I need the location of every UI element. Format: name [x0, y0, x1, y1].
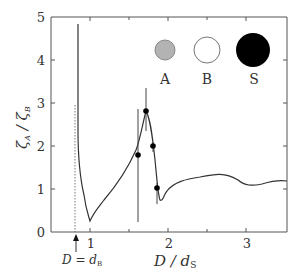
legend: A B S [155, 33, 270, 87]
x-tick-2: 2 [165, 236, 173, 251]
svg-text:ζA / ζB: ζA / ζB [13, 106, 32, 149]
arrow-up-icon [73, 234, 79, 241]
data-point-2 [143, 108, 149, 114]
chart-figure: 1 2 3 0 1 2 3 4 5 ζA / ζB D / dS D = dB [0, 0, 296, 271]
y-tick-3: 3 [37, 96, 45, 111]
data-point-4 [154, 185, 160, 191]
data-point-3 [150, 143, 156, 149]
x-tick-1: 1 [87, 236, 95, 251]
legend-particle-s-icon [236, 33, 270, 67]
y-tick-4: 4 [37, 53, 45, 68]
legend-label-s: S [249, 71, 259, 87]
d-equals-db-annotation: D = dB [61, 105, 102, 268]
x-tick-labels: 1 2 3 [87, 236, 251, 251]
x-tick-3: 3 [243, 236, 251, 251]
y-tick-0: 0 [37, 225, 45, 240]
y-axis-label: ζA / ζB [13, 106, 32, 149]
legend-label-a: A [159, 71, 171, 87]
y-tick-1: 1 [37, 182, 45, 197]
y-tick-5: 5 [37, 10, 45, 25]
data-point-1 [135, 152, 141, 158]
legend-label-b: B [202, 71, 212, 87]
svg-text:D = dB: D = dB [61, 253, 102, 268]
data-markers [135, 108, 160, 191]
x-axis-label: D / dS [153, 252, 196, 270]
y-tick-2: 2 [37, 139, 45, 154]
legend-particle-b-icon [194, 37, 220, 63]
y-tick-labels: 0 1 2 3 4 5 [37, 10, 45, 240]
legend-particle-a-icon [155, 40, 175, 60]
